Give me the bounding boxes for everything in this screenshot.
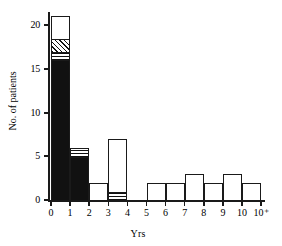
bar-5-6: [147, 183, 166, 200]
bar-3-4: [108, 139, 127, 200]
x-axis-tick: [108, 202, 110, 206]
bar-9-10: [223, 174, 242, 200]
y-axis-tick: [44, 155, 50, 157]
y-axis-line: [48, 12, 50, 202]
bar-8-9: [204, 183, 223, 200]
bar-segment-white: [204, 183, 223, 202]
x-axis-tick: [203, 202, 205, 206]
x-axis-tick: [165, 202, 167, 206]
y-axis-tick-label: 5: [14, 151, 40, 161]
bar-segment-white: [51, 16, 70, 39]
bar-segment-white: [89, 183, 108, 202]
x-axis-tick-label: 5: [137, 208, 157, 218]
x-axis-tick: [260, 202, 262, 206]
x-axis-tick-label: 8: [194, 208, 214, 218]
x-axis-tick: [50, 202, 52, 206]
bar-1-2: [70, 148, 89, 200]
y-axis-tick: [44, 68, 50, 70]
x-axis-tick-label: 1: [60, 208, 80, 218]
x-axis-tick: [88, 202, 90, 206]
bar-segment-white: [223, 174, 242, 202]
x-axis-tick: [222, 202, 224, 206]
x-axis-tick-label: 4: [117, 208, 137, 218]
x-axis-title: Yrs: [118, 228, 158, 239]
x-axis-tick-label: 9: [213, 208, 233, 218]
x-axis-tick-label: 3: [98, 208, 118, 218]
bar-segment-white: [108, 139, 127, 193]
x-axis-tick: [241, 202, 243, 206]
y-axis-title: No. of patients: [8, 46, 18, 156]
y-axis-tick: [44, 24, 50, 26]
bar-10-11: [242, 183, 261, 200]
bar-7-8: [185, 174, 204, 200]
bar-6-7: [166, 183, 185, 200]
x-axis-tick-label: 10: [232, 208, 252, 218]
bar-segment-white: [147, 183, 166, 202]
y-axis-tick: [44, 112, 50, 114]
x-axis-tick-label: 6: [156, 208, 176, 218]
y-axis-tick-label: 20: [14, 20, 40, 30]
x-axis-tick-label: 0: [41, 208, 61, 218]
bar-2-3: [89, 183, 108, 200]
x-axis-tick: [127, 202, 129, 206]
x-axis-tick-label: 2: [79, 208, 99, 218]
bar-segment-diagonal: [51, 38, 70, 53]
x-axis-tick: [69, 202, 71, 206]
bar-segment-white: [185, 174, 204, 202]
histogram-chart: No. of patients 05101520 01234567891010⁺…: [0, 0, 282, 246]
y-axis-tick-label: 10: [14, 108, 40, 118]
y-axis-tick-label: 15: [14, 64, 40, 74]
x-axis-tick-label: 10⁺: [251, 208, 271, 218]
bar-segment-grid: [70, 148, 89, 158]
bar-segment-white: [242, 183, 261, 202]
bar-segment-solid: [51, 60, 70, 201]
bar-segment-white: [166, 183, 185, 202]
x-axis-tick: [184, 202, 186, 206]
bar-segment-solid: [70, 156, 89, 201]
bar-0-1: [51, 16, 70, 200]
x-axis-tick-label: 7: [175, 208, 195, 218]
bar-segment-grid: [51, 51, 70, 61]
y-axis-tick-label: 0: [14, 195, 40, 205]
x-axis-line: [48, 200, 265, 202]
x-axis-tick: [146, 202, 148, 206]
